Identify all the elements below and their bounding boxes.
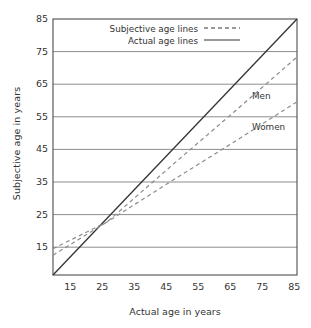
gridlines [53, 52, 297, 248]
chart-svg [0, 0, 311, 328]
series-men-line [53, 57, 297, 255]
series-women-line [53, 102, 297, 249]
chart-container: Subjective age in years 85 75 65 55 45 3… [0, 0, 311, 328]
series-actual-age-line [53, 19, 297, 275]
